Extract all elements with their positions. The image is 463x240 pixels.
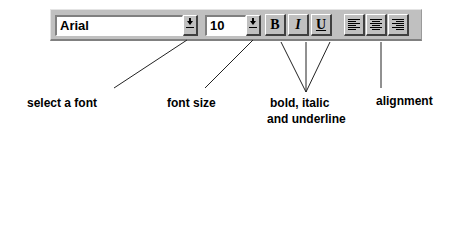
- label-select-font: select a font: [27, 96, 97, 110]
- label-alignment: alignment: [376, 94, 433, 108]
- label-and-underline: and underline: [267, 112, 346, 126]
- label-font-size: font size: [167, 96, 216, 110]
- label-bold-italic: bold, italic: [270, 96, 329, 110]
